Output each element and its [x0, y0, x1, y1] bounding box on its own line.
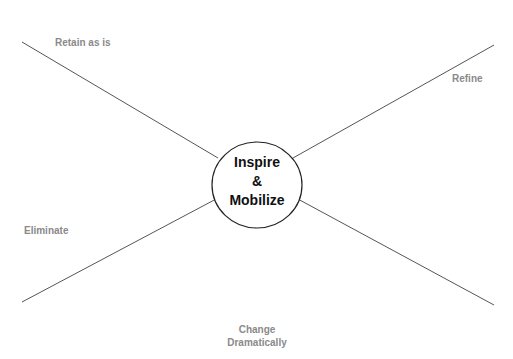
label-retain-as-is: Retain as is: [55, 36, 111, 49]
line-bottom-left: [22, 198, 218, 302]
center-label-line1: Inspire: [212, 153, 302, 172]
label-eliminate: Eliminate: [24, 224, 68, 237]
label-change-line2: Dramatically: [222, 336, 292, 349]
line-top-left: [22, 42, 218, 158]
label-change-line1: Change: [222, 323, 292, 336]
line-top-right: [293, 45, 494, 158]
center-label-line3: Mobilize: [212, 191, 302, 210]
label-refine: Refine: [452, 72, 483, 85]
center-label-line2: &: [212, 172, 302, 191]
center-label: Inspire & Mobilize: [212, 153, 302, 210]
label-change-dramatically: Change Dramatically: [222, 323, 292, 349]
line-bottom-right: [296, 198, 494, 305]
